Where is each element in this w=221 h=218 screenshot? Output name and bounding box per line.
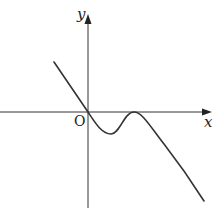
x-axis-label: x <box>204 113 212 131</box>
function-curve <box>54 62 204 201</box>
y-axis-label: y <box>77 5 85 23</box>
origin-label: O <box>74 113 85 129</box>
y-axis-arrow-icon <box>85 14 92 24</box>
chart-canvas <box>0 0 221 218</box>
